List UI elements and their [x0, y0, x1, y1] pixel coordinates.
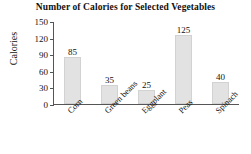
bar-value-peas: 125: [177, 26, 191, 35]
y-axis-line: [53, 22, 54, 105]
y-tick-mark: [50, 22, 54, 23]
chart-title: Number of Calories for Selected Vegetabl…: [0, 2, 251, 12]
y-tick-label: 150: [35, 18, 49, 27]
y-tick-mark: [50, 72, 54, 73]
bar-value-green-beans: 35: [105, 76, 114, 85]
y-tick-label: 0: [44, 101, 49, 110]
y-tick-mark: [50, 55, 54, 56]
y-tick-label: 30: [39, 84, 48, 93]
y-tick-mark: [50, 88, 54, 89]
y-tick-label: 90: [39, 51, 48, 60]
y-tick-mark: [50, 105, 54, 106]
y-tick-mark: [50, 39, 54, 40]
y-tick-label: 60: [39, 67, 48, 76]
plot-area: 0 30 60 90 120 150 85 35 25 125: [53, 22, 239, 105]
bar-value-spinach: 40: [216, 73, 225, 82]
bar-chart-figure: Number of Calories for Selected Vegetabl…: [0, 0, 251, 154]
bar-value-eggplant: 25: [142, 81, 151, 90]
bar-peas: [175, 35, 192, 104]
y-axis-label: Calories: [8, 19, 19, 79]
bar-value-corn: 85: [68, 48, 77, 57]
y-tick-label: 120: [35, 34, 49, 43]
